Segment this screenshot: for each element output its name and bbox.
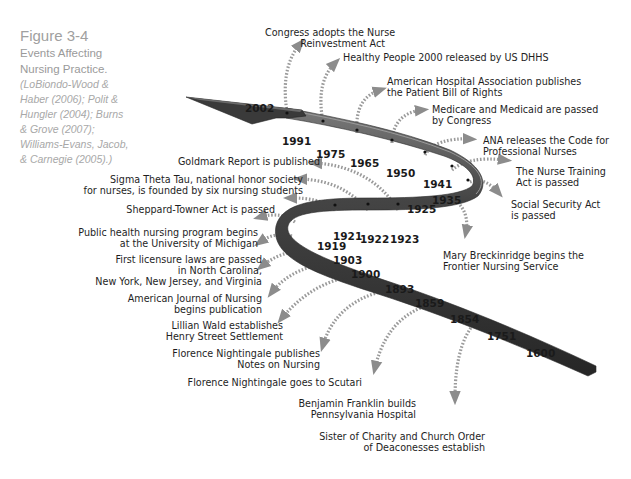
event-text: begins publication (80, 304, 262, 315)
year-label-1965: 1965 (350, 157, 379, 169)
event-text: Healthy People 2000 released by US DHHS (343, 52, 549, 63)
connector-1600 (455, 318, 480, 398)
event-text: at the University of Michigan (40, 238, 258, 249)
event-text: Medicare and Medicaid are passed (432, 104, 598, 115)
event-text: Sigma Theta Tau, national honor society (40, 174, 303, 185)
year-label-1923: 1923 (390, 233, 419, 245)
year-label-1919: 1919 (317, 240, 346, 252)
event-text: Frontier Nursing Service (443, 261, 584, 272)
year-label-1600: 1600 (526, 347, 555, 359)
year-label-1935: 1935 (432, 194, 461, 206)
event-text: Henry Street Settlement (80, 331, 283, 342)
event-text: Pennsylvania Hospital (250, 409, 416, 420)
year-label-2002: 2002 (245, 102, 274, 114)
event-text: of Deaconesses establish (280, 442, 485, 453)
event-text: American Hospital Association publishes (387, 76, 581, 87)
event-text: is passed (511, 210, 600, 221)
year-label-1903: 1903 (333, 254, 362, 266)
connector-1991 (321, 63, 335, 122)
event-1950: ANA releases the Code for Professional N… (483, 135, 609, 157)
year-label-1900: 1900 (351, 268, 380, 280)
year-label-1893: 1893 (385, 283, 414, 295)
event-1600: Sister of Charity and Church Order of De… (280, 431, 485, 453)
event-1903: First licensure laws are passed in North… (40, 254, 262, 287)
event-text: Mary Breckinridge begins the (443, 250, 584, 261)
event-text: Professional Nurses (483, 146, 609, 157)
event-1922: Sigma Theta Tau, national honor society … (40, 174, 303, 196)
event-text: ANA releases the Code for (483, 135, 609, 146)
event-1893: Lillian Wald establishes Henry Street Se… (80, 320, 283, 342)
year-label-1975: 1975 (316, 148, 345, 160)
event-1975: American Hospital Association publishes … (387, 76, 581, 98)
year-label-1922: 1922 (360, 233, 389, 245)
event-text: for nurses, is founded by six nursing st… (40, 185, 303, 196)
event-1854: Florence Nightingale goes to Scutari (100, 377, 362, 388)
event-1859: Florence Nightingale publishes Notes on … (80, 348, 320, 370)
event-text: the Patient Bill of Rights (387, 87, 581, 98)
event-text: New York, New Jersey, and Virginia (40, 276, 262, 287)
event-text: Lillian Wald establishes (80, 320, 283, 331)
event-1941: The Nurse Training Act is passed (516, 166, 606, 188)
event-text: Congress adopts the Nurse (265, 27, 385, 38)
event-text: American Journal of Nursing (80, 293, 262, 304)
event-text: Goldmark Report is published (100, 156, 320, 167)
event-text: Social Security Act (511, 199, 600, 210)
year-label-1925: 1925 (407, 203, 436, 215)
event-text: Florence Nightingale publishes (80, 348, 320, 359)
event-text: First licensure laws are passed (40, 254, 262, 265)
event-1965: Medicare and Medicaid are passed by Cong… (432, 104, 598, 126)
year-label-1950: 1950 (386, 167, 415, 179)
event-1921: Sheppard-Towner Act is passed (80, 204, 275, 215)
year-label-1859: 1859 (415, 297, 444, 309)
event-text: The Nurse Training (516, 166, 606, 177)
event-text: Public health nursing program begins (40, 227, 258, 238)
event-1935: Social Security Act is passed (511, 199, 600, 221)
event-text: Act is passed (516, 177, 606, 188)
event-1751: Benjamin Franklin builds Pennsylvania Ho… (250, 398, 416, 420)
event-1900: American Journal of Nursing begins publi… (80, 293, 262, 315)
event-1919: Public health nursing program begins at … (40, 227, 258, 249)
event-text: Florence Nightingale goes to Scutari (100, 377, 362, 388)
event-1925: Mary Breckinridge begins the Frontier Nu… (443, 250, 584, 272)
year-label-1991: 1991 (282, 135, 311, 147)
event-text: Reinvestment Act (265, 38, 385, 49)
year-label-1941: 1941 (423, 178, 452, 190)
event-text: Notes on Nursing (80, 359, 320, 370)
connector-2002 (285, 44, 300, 112)
event-text: Sheppard-Towner Act is passed (80, 204, 275, 215)
event-text: in North Carolina, (40, 265, 262, 276)
event-1991: Healthy People 2000 released by US DHHS (343, 52, 549, 63)
event-text: Benjamin Franklin builds (250, 398, 416, 409)
event-text: by Congress (432, 115, 598, 126)
year-label-1854: 1854 (450, 313, 479, 325)
event-1923: Goldmark Report is published (100, 156, 320, 167)
event-text: Sister of Charity and Church Order (280, 431, 485, 442)
event-2002: Congress adopts the Nurse Reinvestment A… (265, 27, 385, 49)
connector-1925 (460, 205, 467, 232)
year-label-1751: 1751 (487, 330, 516, 342)
